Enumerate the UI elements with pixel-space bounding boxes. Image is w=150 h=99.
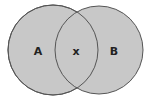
set-a-label: A (34, 45, 43, 58)
venn-diagram: A x B (0, 0, 150, 99)
intersection-label: x (72, 45, 79, 58)
set-b-circle (55, 6, 143, 94)
set-b-label: B (110, 45, 118, 58)
